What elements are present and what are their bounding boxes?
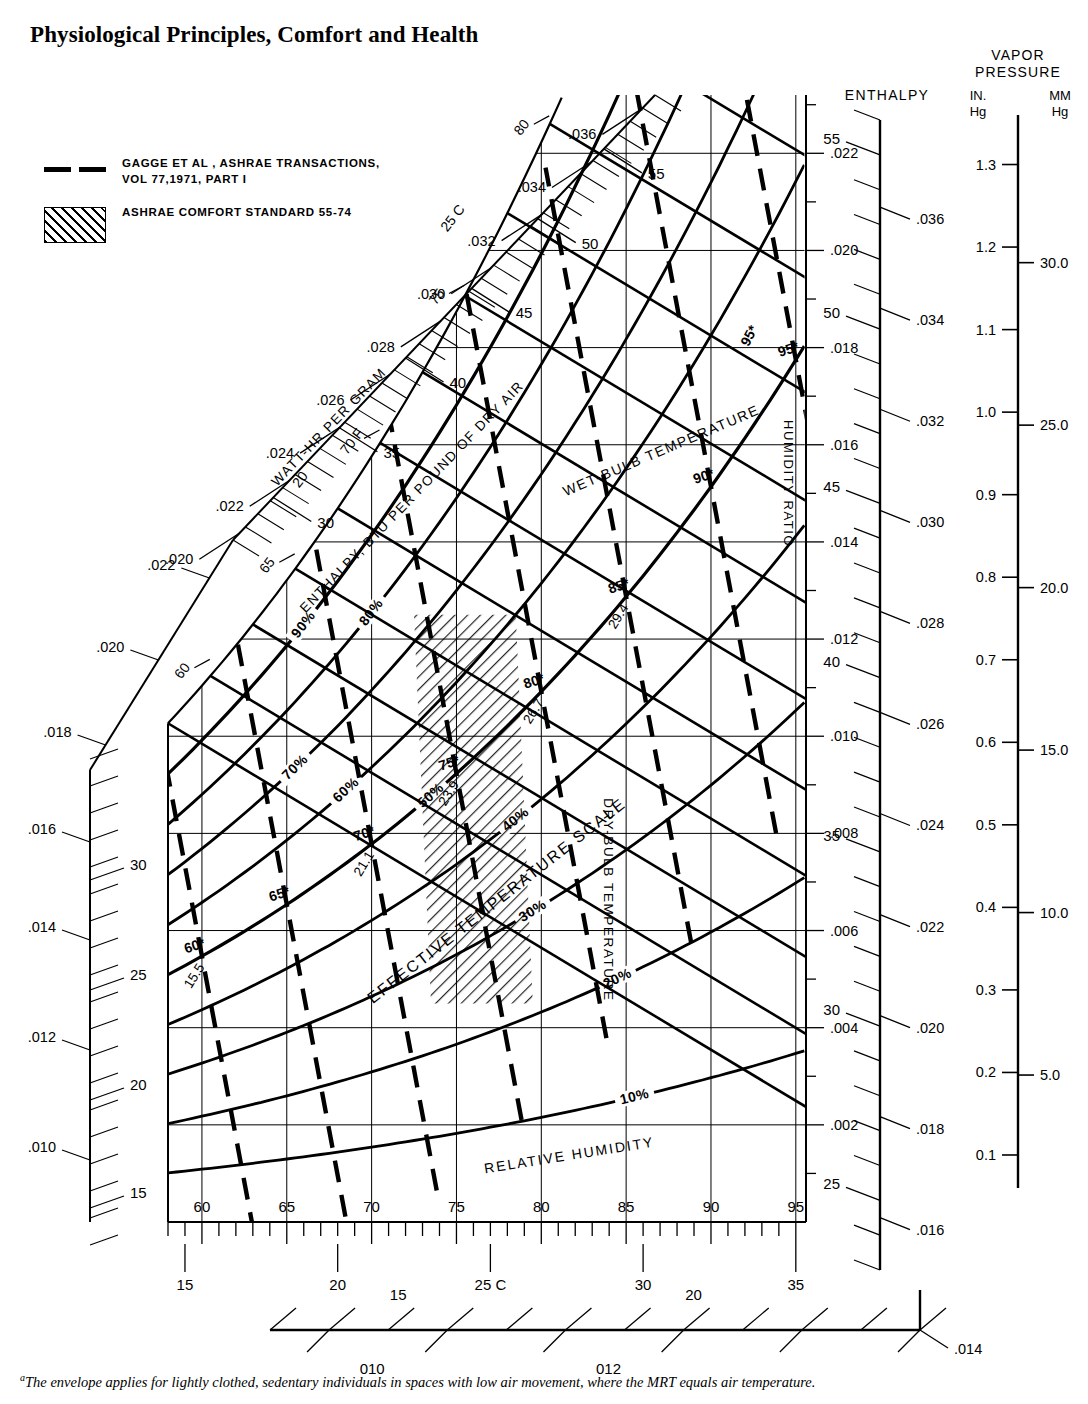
svg-text:65: 65 [256,554,278,576]
chart-layer: 65 [256,540,295,581]
svg-text:.034: .034 [916,312,944,328]
svg-text:95: 95 [787,1198,804,1215]
svg-text:20.0: 20.0 [1040,580,1068,596]
svg-text:70 F: 70 F [337,425,367,457]
svg-text:1.0: 1.0 [976,404,996,420]
svg-text:1.2: 1.2 [976,239,996,255]
svg-text:.020: .020 [96,639,124,655]
svg-text:20: 20 [685,1286,702,1303]
svg-text:0.7: 0.7 [976,652,996,668]
svg-text:Hg: Hg [970,104,987,119]
svg-text:0.3: 0.3 [976,982,996,998]
svg-text:45: 45 [516,304,533,321]
psychrometric-chart-page: Physiological Principles, Comfort and He… [0,0,1088,1404]
svg-text:85: 85 [618,1198,635,1215]
svg-text:55: 55 [823,130,840,147]
svg-text:10%: 10% [618,1085,651,1108]
svg-text:50: 50 [582,235,599,252]
axis-label-dry-bulb: DRY-BULB TEMPERATURE [601,798,616,1001]
svg-text:75: 75 [448,1198,465,1215]
svg-text:.014: .014 [28,919,56,935]
svg-text:35: 35 [383,444,400,461]
svg-text:.030: .030 [916,514,944,530]
svg-text:1.1: 1.1 [976,322,996,338]
svg-text:.014: .014 [830,534,858,550]
svg-text:30: 30 [130,856,147,873]
svg-text:95*: 95* [737,322,761,349]
svg-text:VAPOR: VAPOR [991,47,1044,63]
svg-text:.018: .018 [43,724,71,740]
svg-text:0.8: 0.8 [976,569,996,585]
svg-text:20: 20 [130,1076,147,1093]
svg-text:WATT-HR PER GRAM: WATT-HR PER GRAM [268,365,389,489]
svg-text:25.0: 25.0 [1040,417,1068,433]
svg-text:MM: MM [1049,88,1071,103]
svg-text:.028: .028 [367,339,395,355]
svg-text:.028: .028 [916,615,944,631]
svg-text:65: 65 [278,1198,295,1215]
chart-layer: 70% [275,747,315,786]
svg-text:0.2: 0.2 [976,1064,996,1080]
svg-text:ENTHALPY: ENTHALPY [845,87,929,103]
svg-text:.012: .012 [830,631,858,647]
svg-text:15: 15 [177,1276,194,1293]
svg-text:.018: .018 [916,1121,944,1137]
svg-text:25 C: 25 C [437,201,468,234]
psychrometric-chart-svg: 10%20%30%40%50%60%70%80%90%6065707580859… [0,0,1088,1404]
svg-text:15.0: 15.0 [1040,742,1068,758]
svg-text:DRY-BULB TEMPERATURE: DRY-BULB TEMPERATURE [601,798,616,1001]
chart-layer: 6065707580859095152025 C3035 [168,1198,804,1293]
svg-text:.016: .016 [28,821,56,837]
svg-text:.034: .034 [518,179,546,195]
chart-layer: 10% [613,1084,656,1109]
svg-text:.016: .016 [830,437,858,453]
svg-text:45: 45 [823,478,840,495]
svg-text:RELATIVE HUMIDITY: RELATIVE HUMIDITY [483,1134,656,1177]
chart-layer: 25 C [437,201,468,234]
svg-text:55: 55 [648,165,665,182]
svg-text:.022: .022 [215,498,243,514]
chart-layer: 80% [352,591,389,632]
svg-text:012: 012 [596,1360,621,1377]
svg-text:70: 70 [363,1198,380,1215]
svg-text:80: 80 [533,1198,550,1215]
svg-text:30: 30 [317,514,334,531]
svg-text:15: 15 [390,1286,407,1303]
svg-text:50: 50 [823,304,840,321]
svg-text:1.3: 1.3 [976,157,996,173]
svg-text:60: 60 [171,659,193,681]
svg-text:.022: .022 [916,919,944,935]
svg-text:.032: .032 [916,413,944,429]
svg-text:Hg: Hg [1052,104,1069,119]
chart-layer: .020.022.024.026.028.030.032.034.0363035… [165,95,681,567]
svg-text:30.0: 30.0 [1040,255,1068,271]
svg-text:40: 40 [823,653,840,670]
svg-text:.010: .010 [830,728,858,744]
chart-layer: ENTHALPY25303540455055.016.018.020.022.0… [823,87,944,1270]
svg-text:.018: .018 [830,340,858,356]
axis-label-relative-humidity: RELATIVE HUMIDITY [483,1134,656,1177]
svg-text:35: 35 [823,827,840,844]
svg-text:.002: .002 [830,1117,858,1133]
svg-text:PRESSURE: PRESSURE [975,64,1061,80]
svg-text:.020: .020 [916,1020,944,1036]
svg-text:25: 25 [130,966,147,983]
svg-text:40: 40 [450,374,467,391]
svg-text:0.6: 0.6 [976,734,996,750]
chart-layer: 60 [171,645,210,686]
axis-label-watt-hr: WATT-HR PER GRAM [268,365,389,489]
svg-text:30: 30 [823,1001,840,1018]
svg-text:.022: .022 [830,145,858,161]
svg-text:.026: .026 [916,716,944,732]
svg-text:.006: .006 [830,923,858,939]
svg-text:IN.: IN. [970,88,987,103]
svg-text:90: 90 [703,1198,720,1215]
svg-text:.020: .020 [165,551,193,567]
svg-text:10.0: 10.0 [1040,905,1068,921]
svg-text:HUMIDITY RATIO: HUMIDITY RATIO [781,420,796,547]
svg-text:5.0: 5.0 [1040,1067,1060,1083]
svg-text:0.1: 0.1 [976,1147,996,1163]
svg-text:.016: .016 [916,1222,944,1238]
svg-text:20: 20 [329,1276,346,1293]
svg-text:.004: .004 [830,1020,858,1036]
